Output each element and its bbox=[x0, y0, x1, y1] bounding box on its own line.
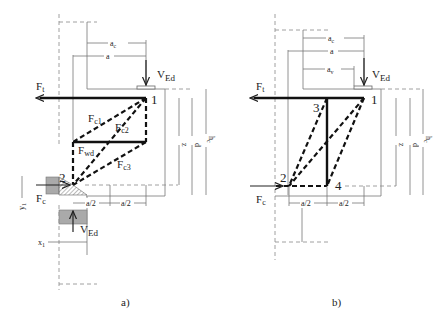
dim-x1-label: x1 bbox=[38, 238, 45, 248]
member-fc2: Fc2 bbox=[115, 121, 129, 135]
dim-hc-label-b: hc bbox=[423, 136, 433, 143]
dim-a-label-b: a bbox=[330, 47, 334, 56]
compression-label: Fc bbox=[36, 192, 46, 206]
node-2-label-b: 2 bbox=[280, 170, 287, 185]
panel-a: ac a VEd Ft 1 2 Fc1 Fc2 Fc3 Fwd Fc VEd bbox=[17, 14, 216, 309]
dim-half2-label: a/2 bbox=[121, 199, 131, 208]
caption-a: a) bbox=[121, 296, 130, 309]
panel-b: ac a av VEd Ft 1 2 3 4 Fc a/2 a/2 bbox=[250, 14, 433, 309]
node-3-label-b: 3 bbox=[313, 100, 320, 115]
strut-fc1 bbox=[73, 98, 146, 142]
node-1-label-b: 1 bbox=[371, 92, 378, 107]
strut-3-2 bbox=[289, 98, 327, 186]
corbel-diagram: ac a VEd Ft 1 2 Fc1 Fc2 Fc3 Fwd Fc VEd bbox=[0, 0, 439, 320]
load-label: VEd bbox=[157, 68, 175, 83]
dim-z-label-b: z bbox=[397, 143, 406, 147]
dim-d-label-b: d bbox=[411, 143, 420, 147]
bearing-plate-b bbox=[354, 86, 372, 89]
compression-label-b: Fc bbox=[256, 193, 266, 207]
dim-half1-label: a/2 bbox=[86, 199, 96, 208]
reaction-label: VEd bbox=[80, 223, 98, 238]
dim-half2-label-b: a/2 bbox=[339, 199, 349, 208]
dim-y1-label: y1 bbox=[17, 203, 27, 210]
node-1-label: 1 bbox=[151, 92, 158, 107]
load-label-b: VEd bbox=[372, 68, 390, 83]
bearing-plate bbox=[137, 86, 155, 89]
dim-z-label: z bbox=[180, 143, 189, 147]
caption-b: b) bbox=[332, 296, 342, 309]
dim-hc-label: hc bbox=[206, 136, 216, 143]
dim-a-label: a bbox=[106, 52, 110, 61]
tension-label: Ft bbox=[36, 80, 45, 94]
tension-label-b: Ft bbox=[256, 80, 265, 94]
node-4-label-b: 4 bbox=[335, 178, 342, 193]
strut-1-4 bbox=[327, 98, 364, 186]
member-fwd: Fwd bbox=[78, 144, 94, 158]
dim-d-label: d bbox=[193, 143, 202, 147]
dim-half1-label-b: a/2 bbox=[301, 199, 311, 208]
member-fc1: Fc1 bbox=[88, 112, 102, 126]
member-fc3: Fc3 bbox=[117, 158, 131, 172]
